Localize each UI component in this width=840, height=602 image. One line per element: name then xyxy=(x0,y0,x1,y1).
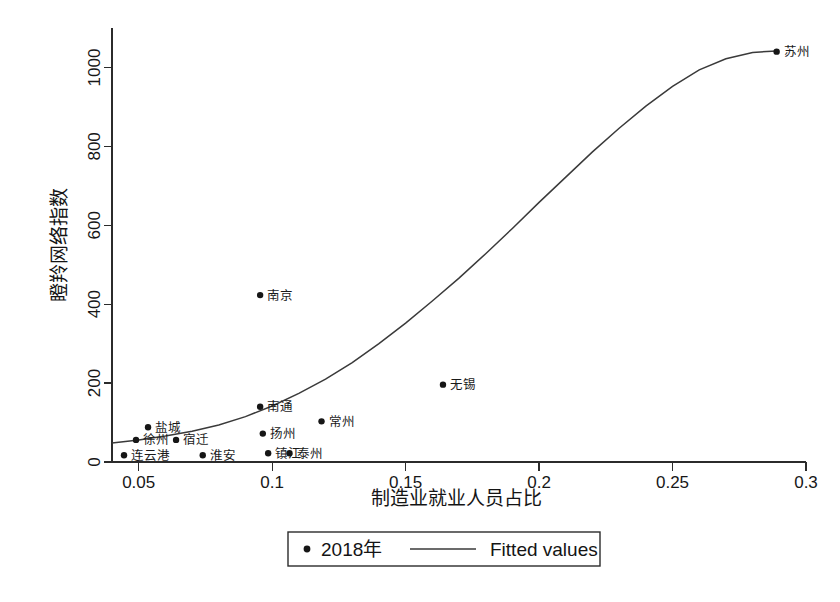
data-point xyxy=(260,430,266,436)
data-point xyxy=(773,48,779,54)
y-tick-label: 400 xyxy=(85,290,104,318)
data-point xyxy=(286,450,292,456)
data-point xyxy=(145,424,151,430)
data-point-label: 常州 xyxy=(329,415,355,429)
data-point xyxy=(121,452,127,458)
data-points-group: 苏州南京无锡南通常州盐城扬州徐州宿迁镇江泰州连云港淮安 xyxy=(121,44,810,463)
x-tick-label: 0.05 xyxy=(122,473,155,492)
data-point-label: 南京 xyxy=(267,288,293,303)
y-axis-title: 瞪羚网络指数 xyxy=(49,188,70,302)
y-tick-label: 800 xyxy=(85,132,104,160)
data-point-label: 南通 xyxy=(267,399,293,414)
scatter-plot-svg: 02004006008001000 0.050.10.150.20.250.3 … xyxy=(0,0,840,602)
y-tick-label: 200 xyxy=(85,369,104,397)
data-point-label: 扬州 xyxy=(270,426,296,441)
data-point-label: 淮安 xyxy=(210,448,236,463)
y-tick-label: 600 xyxy=(85,211,104,239)
data-point xyxy=(173,437,179,443)
data-point xyxy=(440,381,446,387)
data-point-label: 宿迁 xyxy=(183,432,209,447)
data-point xyxy=(200,452,206,458)
legend-scatter-label: 2018年 xyxy=(321,539,382,560)
data-point-label: 无锡 xyxy=(450,377,476,392)
data-point-label: 苏州 xyxy=(784,44,810,59)
data-point-label: 连云港 xyxy=(131,448,170,463)
legend-scatter-marker xyxy=(304,546,311,553)
data-point xyxy=(318,418,324,424)
y-tick-label: 0 xyxy=(85,457,104,466)
data-point xyxy=(257,292,263,298)
x-axis-title: 制造业就业人员占比 xyxy=(371,488,542,509)
legend-line-label: Fitted values xyxy=(490,539,598,560)
x-tick-label: 0.1 xyxy=(260,473,284,492)
data-point-label: 徐州 xyxy=(143,432,169,447)
chart-container: 02004006008001000 0.050.10.150.20.250.3 … xyxy=(0,0,840,602)
x-tick-label: 0.3 xyxy=(794,473,818,492)
y-axis-ticks: 02004006008001000 xyxy=(85,49,112,467)
y-tick-label: 1000 xyxy=(85,49,104,87)
data-point xyxy=(265,450,271,456)
x-tick-label: 0.25 xyxy=(656,473,689,492)
data-point xyxy=(133,437,139,443)
data-point-label: 泰州 xyxy=(297,447,323,461)
data-point xyxy=(257,404,263,410)
chart-legend: 2018年 Fitted values xyxy=(288,532,600,566)
